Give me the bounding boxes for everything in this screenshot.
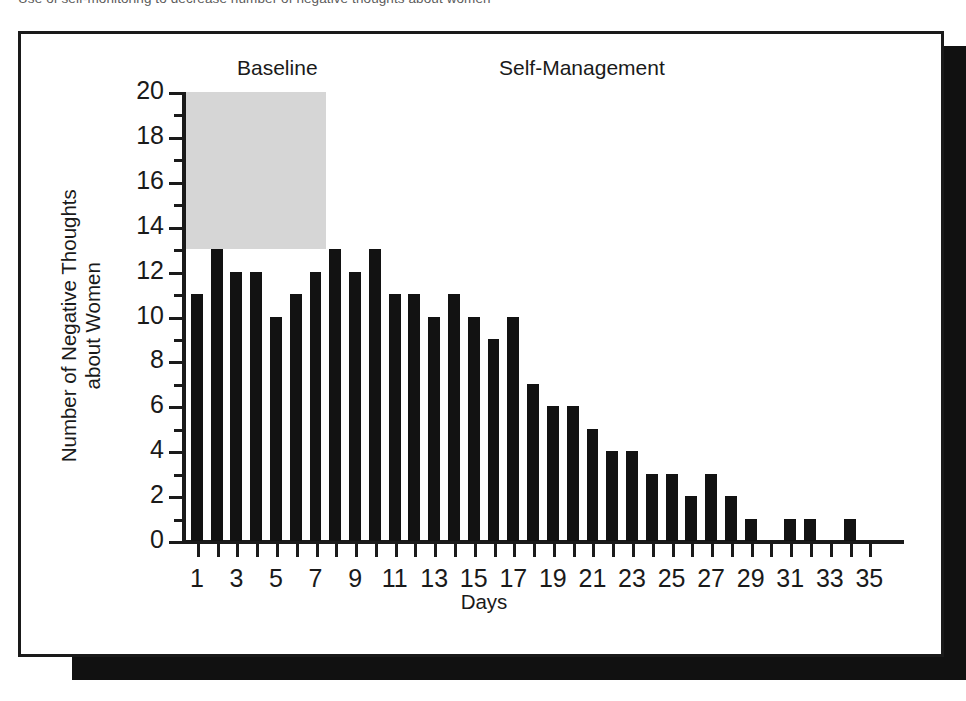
bar-day-32 <box>804 519 816 541</box>
x-tick-3 <box>236 544 239 557</box>
x-tick-label-33: 33 <box>816 566 844 591</box>
x-tick-17 <box>513 544 516 557</box>
x-tick-label-19: 19 <box>539 566 567 591</box>
x-tick-11 <box>395 544 398 557</box>
y-tick-6: 6 <box>169 406 182 409</box>
figure-caption-text: Use of self-monitoring to decrease numbe… <box>0 0 966 6</box>
bar-day-17 <box>507 317 519 542</box>
y-tick-minor-15 <box>174 204 182 207</box>
bar-day-28 <box>725 496 737 541</box>
y-tick-label-10: 10 <box>136 303 164 328</box>
y-tick-label-16: 16 <box>136 168 164 193</box>
x-tick-5 <box>276 544 279 557</box>
bar-day-19 <box>547 406 559 541</box>
bar-day-2 <box>211 249 223 541</box>
x-tick-label-15: 15 <box>460 566 488 591</box>
x-tick-label-31: 31 <box>776 566 804 591</box>
x-tick-19 <box>553 544 556 557</box>
y-tick-2: 2 <box>169 496 182 499</box>
x-tick-6 <box>296 544 299 557</box>
x-tick-label-1: 1 <box>190 566 204 591</box>
y-tick-0: 0 <box>169 541 182 544</box>
x-tick-32 <box>810 544 813 557</box>
y-tick-label-12: 12 <box>136 258 164 283</box>
y-tick-label-18: 18 <box>136 123 164 148</box>
y-tick-4: 4 <box>169 451 182 454</box>
y-tick-minor-5 <box>174 429 182 432</box>
y-tick-minor-11 <box>174 294 182 297</box>
y-axis-title-line2: about Women <box>81 126 105 526</box>
bar-day-18 <box>527 384 539 541</box>
x-tick-12 <box>414 544 417 557</box>
y-tick-label-4: 4 <box>150 437 164 462</box>
bar-day-20 <box>567 406 579 541</box>
bar-day-23 <box>626 451 638 541</box>
x-tick-16 <box>494 544 497 557</box>
x-tick-33 <box>830 544 833 557</box>
bar-day-22 <box>606 451 618 541</box>
y-tick-label-20: 20 <box>136 78 164 103</box>
x-tick-20 <box>573 544 576 557</box>
x-tick-18 <box>533 544 536 557</box>
x-tick-label-29: 29 <box>737 566 765 591</box>
bar-day-11 <box>389 294 401 541</box>
y-tick-minor-9 <box>174 339 182 342</box>
y-tick-label-0: 0 <box>150 527 164 552</box>
chart-plot-area: Baseline Self-Management Number of Negat… <box>21 34 947 660</box>
x-tick-label-3: 3 <box>229 566 243 591</box>
x-tick-label-21: 21 <box>579 566 607 591</box>
x-tick-label-23: 23 <box>618 566 646 591</box>
phase-label-self-management: Self-Management <box>499 56 665 80</box>
y-tick-minor-3 <box>174 474 182 477</box>
x-tick-4 <box>256 544 259 557</box>
figure-frame: Baseline Self-Management Number of Negat… <box>18 31 944 657</box>
bar-day-8 <box>329 249 341 541</box>
bar-day-10 <box>369 249 381 541</box>
bar-day-26 <box>685 496 697 541</box>
bar-day-16 <box>488 339 500 541</box>
bar-day-25 <box>666 474 678 541</box>
y-tick-label-14: 14 <box>136 213 164 238</box>
bar-day-5 <box>270 317 282 542</box>
y-tick-18: 18 <box>169 137 182 140</box>
baseline-phase-shading <box>186 92 326 249</box>
y-axis-line <box>182 92 186 544</box>
x-tick-9 <box>355 544 358 557</box>
phase-label-baseline: Baseline <box>237 56 318 80</box>
bar-day-15 <box>468 317 480 542</box>
figure-caption-strip: Use of self-monitoring to decrease numbe… <box>0 0 966 11</box>
y-tick-14: 14 <box>169 227 182 230</box>
x-tick-27 <box>711 544 714 557</box>
x-tick-26 <box>691 544 694 557</box>
x-tick-label-35: 35 <box>855 566 883 591</box>
x-tick-30 <box>770 544 773 557</box>
bar-day-31 <box>784 519 796 541</box>
x-tick-22 <box>612 544 615 557</box>
chart-axes: 02468101214161820 1357911131517192123252… <box>182 92 904 544</box>
bar-day-7 <box>310 272 322 541</box>
y-tick-minor-17 <box>174 159 182 162</box>
bar-day-1 <box>191 294 203 541</box>
x-tick-21 <box>592 544 595 557</box>
y-tick-minor-19 <box>174 114 182 117</box>
x-tick-label-7: 7 <box>309 566 323 591</box>
x-tick-8 <box>335 544 338 557</box>
bar-day-27 <box>705 474 717 541</box>
y-tick-12: 12 <box>169 272 182 275</box>
bar-day-9 <box>349 272 361 541</box>
x-tick-2 <box>217 544 220 557</box>
x-tick-31 <box>790 544 793 557</box>
y-tick-label-2: 2 <box>150 482 164 507</box>
x-tick-15 <box>474 544 477 557</box>
x-tick-label-25: 25 <box>658 566 686 591</box>
x-tick-10 <box>375 544 378 557</box>
bar-day-14 <box>448 294 460 541</box>
bar-day-12 <box>408 294 420 541</box>
bar-day-21 <box>587 429 599 541</box>
x-tick-14 <box>454 544 457 557</box>
x-tick-label-17: 17 <box>499 566 527 591</box>
bar-day-34 <box>844 519 856 541</box>
x-tick-label-9: 9 <box>348 566 362 591</box>
bar-day-24 <box>646 474 658 541</box>
y-axis-title-line1: Number of Negative Thoughts <box>57 126 81 526</box>
